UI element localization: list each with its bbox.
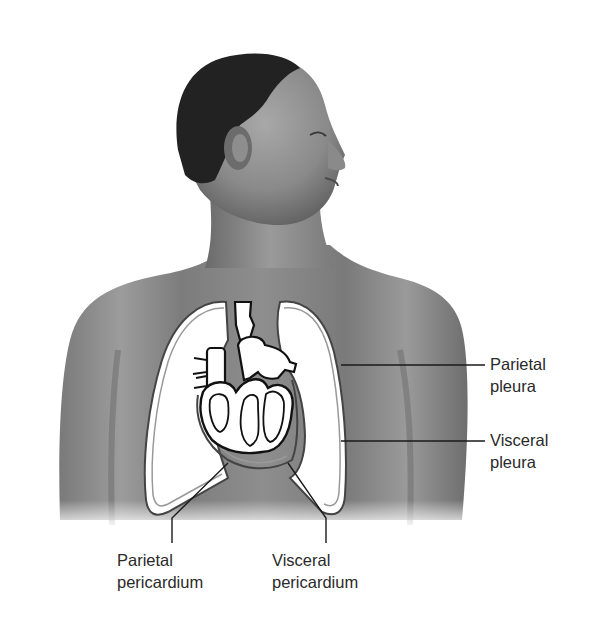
label-visceral-pericardium-line1: Visceral (272, 549, 358, 571)
label-visceral-pleura-line1: Visceral (490, 429, 548, 451)
label-parietal-pleura: Parietal pleura (490, 353, 546, 397)
label-visceral-pleura: Visceral pleura (490, 429, 548, 473)
label-parietal-pleura-line2: pleura (490, 375, 546, 397)
label-parietal-pleura-line1: Parietal (490, 353, 546, 375)
label-visceral-pleura-line2: pleura (490, 451, 548, 473)
label-parietal-pericardium-line2: pericardium (117, 571, 203, 593)
label-parietal-pericardium-line1: Parietal (117, 549, 203, 571)
label-parietal-pericardium: Parietal pericardium (117, 549, 203, 593)
label-visceral-pericardium-line2: pericardium (272, 571, 358, 593)
head (176, 53, 345, 225)
label-visceral-pericardium: Visceral pericardium (272, 549, 358, 593)
anatomy-illustration (0, 0, 594, 629)
